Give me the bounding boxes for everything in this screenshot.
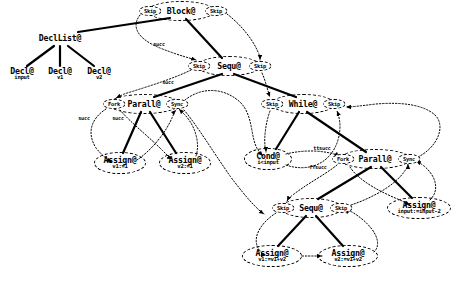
edge-label-ffsucc: ffsucc xyxy=(309,164,327,170)
succ-assign2-to-sync1 xyxy=(179,109,198,156)
succ-block-out-to-sequ1-out xyxy=(227,14,260,60)
node-block-label: Block@ xyxy=(167,7,195,16)
node-sequ-1[interactable]: Sequ@ xyxy=(217,62,241,71)
tree-edge-sequ2-assign4 xyxy=(316,216,343,246)
node-sequ-2-label: Sequ@ xyxy=(299,204,323,213)
node-while-label: While@ xyxy=(289,100,317,109)
node-parall-2-label: Parall@ xyxy=(358,155,391,164)
tree-edge-block-sequ1 xyxy=(186,19,222,58)
port-parall-1-sync[interactable]: Sync xyxy=(166,99,189,109)
node-decllist[interactable]: DeclList@ xyxy=(39,34,82,43)
node-assign-v1-2-sub: v1:=v1+v2 xyxy=(255,257,288,263)
port-parall-2-fork[interactable]: Fork xyxy=(332,154,355,164)
node-sequ-1-label: Sequ@ xyxy=(217,62,241,71)
node-while[interactable]: While@ xyxy=(289,100,317,109)
tree-edge-decllist-decl1 xyxy=(27,46,54,66)
tree-edge-sequ1-while xyxy=(234,74,296,97)
port-sequ-2-exit[interactable]: Skip xyxy=(330,203,353,213)
node-assign-v1-1[interactable]: Assign@ v1:=1 xyxy=(103,156,136,170)
node-assign-input-sub: input:=input-2 xyxy=(398,209,441,215)
port-block-entry[interactable]: Skip xyxy=(139,6,162,16)
tree-edge-sequ1-parall1 xyxy=(154,74,222,97)
node-sequ-2[interactable]: Sequ@ xyxy=(299,204,323,213)
diagram-canvas: Block@ DeclList@ Decl@ input Decl@ v1 De… xyxy=(0,0,465,282)
node-parall-1-label: Parall@ xyxy=(127,100,160,109)
node-parall-2[interactable]: Parall@ xyxy=(358,155,391,164)
port-sequ-2-entry[interactable]: Skip xyxy=(272,203,295,213)
node-assign-v2-2-sub: v2:=v1+v2 xyxy=(331,257,364,263)
edge-label-succ-3: succ xyxy=(78,115,90,121)
port-sequ-1-entry[interactable]: Skip xyxy=(188,61,211,71)
node-cond[interactable]: Cond@ i<input xyxy=(256,152,280,166)
succ-fork2-to-sequ2-in xyxy=(287,165,337,201)
port-block-exit[interactable]: Skip xyxy=(205,6,228,16)
succ-assign1-to-sync1 xyxy=(137,110,176,160)
node-decl-v1[interactable]: Decl@ v1 xyxy=(48,67,72,81)
tree-edge-parall1-assign1 xyxy=(123,112,141,153)
tree-edges xyxy=(27,18,412,246)
port-sequ-1-exit[interactable]: Skip xyxy=(249,61,272,71)
node-decllist-label: DeclList@ xyxy=(39,34,82,43)
edge-label-ttsucc: ttsucc xyxy=(313,145,331,151)
port-while-exit[interactable]: Skip xyxy=(323,99,346,109)
tree-edge-parall2-sequ2 xyxy=(318,167,371,199)
edge-label-succ-2: succ xyxy=(162,79,174,85)
node-parall-1[interactable]: Parall@ xyxy=(127,100,160,109)
tree-edge-block-decllist xyxy=(78,18,170,32)
node-block[interactable]: Block@ xyxy=(167,7,195,16)
edge-label-succ-1: succ xyxy=(153,41,165,47)
succ-edges xyxy=(91,14,440,256)
node-assign-input[interactable]: Assign@ input:=input-2 xyxy=(398,201,441,215)
succ-sync1-to-cond xyxy=(185,91,263,157)
tree-edge-while-cond xyxy=(276,112,299,149)
node-decl-v2[interactable]: Decl@ v2 xyxy=(87,67,111,81)
succ-assign5-to-sync2 xyxy=(416,161,436,200)
node-assign-v2-1[interactable]: Assign@ v2:=1 xyxy=(168,156,201,170)
tree-edge-decllist-decl3 xyxy=(68,46,94,66)
port-parall-1-fork[interactable]: Fork xyxy=(103,99,126,109)
succ-while-in-to-cond xyxy=(265,111,270,152)
tree-edge-sequ2-assign3 xyxy=(278,216,306,246)
node-assign-v2-2[interactable]: Assign@ v2:=v1+v2 xyxy=(331,249,364,263)
node-assign-v1-2[interactable]: Assign@ v1:=v1+v2 xyxy=(255,249,288,263)
port-parall-2-sync[interactable]: Sync xyxy=(398,154,421,164)
node-cond-sub: i<input xyxy=(256,160,280,166)
port-while-entry[interactable]: Skip xyxy=(261,99,284,109)
edge-label-succ-4: succ xyxy=(112,115,124,121)
node-decl-input[interactable]: Decl@ input xyxy=(10,67,34,81)
